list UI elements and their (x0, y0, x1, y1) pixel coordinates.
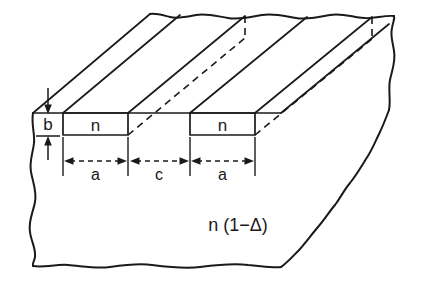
dim-a1-arrow-left-icon (64, 157, 74, 165)
thickness-arrow-up-icon (44, 136, 52, 146)
dim-a1-arrow-right-icon (118, 157, 128, 165)
dim-c-arrow-left-icon (130, 157, 140, 165)
torn-edge-lower-right (281, 110, 389, 267)
stripe-3-edge-partial (281, 24, 389, 113)
dimension-width-a-right: a (191, 157, 254, 183)
stripe-1-edge-right (128, 16, 245, 113)
dimension-gap-c: c (130, 157, 189, 183)
thickness-label-b: b (43, 115, 52, 134)
cladding-index-label: n (1−Δ) (208, 215, 268, 235)
waveguide-block-diagram: n n b a (0, 0, 421, 281)
dim-label-a-right: a (218, 166, 227, 183)
dim-label-c: c (155, 166, 163, 183)
stripe-2-edge-right (255, 17, 372, 113)
torn-edge-left (30, 113, 36, 266)
receding-edge-left (33, 14, 150, 113)
dim-c-arrow-right-icon (180, 157, 190, 165)
top-surface (33, 14, 281, 113)
torn-edge-bottom (33, 264, 281, 268)
dimension-thickness-b: b (36, 88, 60, 160)
dim-a2-arrow-right-icon (245, 157, 255, 165)
stripe-2-edge-left (190, 17, 307, 113)
core-index-label-2: n (218, 116, 227, 135)
stripe-rect-2: n (190, 113, 255, 135)
stripe-top-lines (63, 15, 389, 113)
dim-a2-arrow-left-icon (191, 157, 201, 165)
dim-label-a-left: a (91, 166, 100, 183)
torn-edge-top-rear (150, 14, 394, 19)
hidden-edge-stripe-1 (128, 38, 245, 135)
hidden-stripe-lines (128, 16, 372, 135)
torn-edge-right (389, 16, 395, 110)
stripe-1-edge-left (63, 15, 180, 113)
figure-container: n n b a (0, 0, 421, 281)
dimension-width-a-left: a (64, 157, 127, 183)
core-index-label-1: n (91, 116, 100, 135)
stripe-rect-1: n (63, 113, 128, 135)
